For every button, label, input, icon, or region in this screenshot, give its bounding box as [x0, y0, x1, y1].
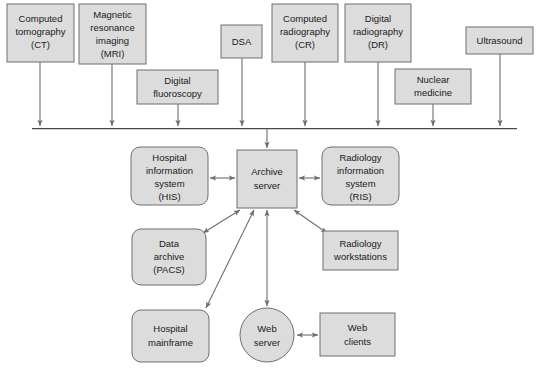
node-dsa-label-line-0: DSA	[232, 36, 252, 47]
node-archive-server-label-line-1: server	[254, 180, 280, 191]
node-ris-label-line-2: system	[345, 178, 375, 189]
node-web-server-label-line-0: Web	[257, 323, 276, 334]
node-nuclear-medicine-label-line-1: medicine	[414, 87, 452, 98]
pacs-architecture-diagram: Computed tomography (CT) Magnetic resona…	[0, 0, 540, 369]
node-mri[interactable]: Magnetic resonance imaging (MRI)	[79, 4, 146, 64]
diagram-canvas: Computed tomography (CT) Magnetic resona…	[0, 0, 540, 369]
node-ris-label-line-0: Radiology	[339, 152, 381, 163]
node-radiology-workstations-label-line-1: workstations	[333, 251, 387, 262]
edge-archive-server-radiology-workstations	[294, 210, 327, 233]
node-web-server-label-line-1: server	[254, 337, 280, 348]
node-data-archive-pacs-label-line-1: archive	[154, 251, 185, 262]
node-cr-label-line-1: radiography	[280, 26, 330, 37]
node-ct-label-line-1: tomography	[15, 26, 65, 37]
node-digital-fluoroscopy[interactable]: Digital fluoroscopy	[137, 70, 218, 104]
node-his[interactable]: Hospital information system (HIS)	[131, 147, 208, 205]
node-archive-server[interactable]: Archive server	[237, 150, 297, 208]
node-digital-fluoroscopy-label-line-0: Digital	[164, 75, 190, 86]
node-dr-label-line-2: (DR)	[368, 39, 388, 50]
node-data-archive-pacs[interactable]: Data archive (PACS)	[132, 229, 206, 285]
node-mri-label-line-2: imaging	[96, 35, 129, 46]
node-cr-label-line-2: (CR)	[295, 39, 315, 50]
node-archive-server-label-line-0: Archive	[251, 166, 283, 177]
node-his-label-line-1: information	[146, 165, 193, 176]
node-ct-label-line-0: Computed	[19, 13, 63, 24]
node-digital-fluoroscopy-label-line-1: fluoroscopy	[153, 88, 202, 99]
node-his-label-line-2: system	[154, 178, 184, 189]
node-mri-label-line-0: Magnetic	[93, 9, 132, 20]
node-web-server[interactable]: Web server	[240, 308, 294, 362]
node-web-clients[interactable]: Web clients	[320, 313, 395, 356]
node-nuclear-medicine[interactable]: Nuclear medicine	[395, 69, 471, 104]
node-dsa[interactable]: DSA	[221, 25, 262, 58]
node-his-label-line-0: Hospital	[152, 152, 186, 163]
node-ris-label-line-3: (RIS)	[349, 191, 371, 202]
node-radiology-workstations-label-line-0: Radiology	[339, 238, 381, 249]
node-mri-label-line-1: resonance	[90, 22, 134, 33]
node-ultrasound-label-line-0: Ultrasound	[477, 35, 523, 46]
node-cr[interactable]: Computed radiography (CR)	[272, 4, 338, 62]
node-web-clients-label-line-0: Web	[348, 322, 367, 333]
node-dr[interactable]: Digital radiography (DR)	[345, 4, 411, 62]
node-hospital-mainframe[interactable]: Hospital mainframe	[132, 310, 209, 362]
node-dr-label-line-0: Digital	[365, 13, 391, 24]
node-cr-label-line-0: Computed	[283, 13, 327, 24]
node-data-archive-pacs-label-line-2: (PACS)	[153, 264, 185, 275]
node-ct-label-line-2: (CT)	[31, 39, 50, 50]
node-radiology-workstations[interactable]: Radiology workstations	[323, 231, 398, 270]
edge-archive-server-data-archive	[203, 210, 240, 233]
node-web-clients-shape	[320, 313, 395, 356]
node-ct[interactable]: Computed tomography (CT)	[7, 4, 74, 62]
node-web-clients-label-line-1: clients	[344, 336, 371, 347]
node-web-server-shape	[240, 308, 294, 362]
node-ultrasound[interactable]: Ultrasound	[466, 27, 533, 54]
edge-archive-server-hospital-mainframe	[206, 210, 254, 308]
node-his-label-line-3: (HIS)	[158, 191, 180, 202]
modality-bus-line	[32, 128, 517, 129]
node-hospital-mainframe-label-line-0: Hospital	[153, 323, 187, 334]
node-data-archive-pacs-label-line-0: Data	[159, 238, 180, 249]
node-ris[interactable]: Radiology information system (RIS)	[322, 147, 399, 205]
node-hospital-mainframe-label-line-1: mainframe	[148, 337, 193, 348]
node-dr-label-line-1: radiography	[353, 26, 403, 37]
node-ris-label-line-1: information	[337, 165, 384, 176]
node-nuclear-medicine-label-line-0: Nuclear	[417, 74, 450, 85]
node-mri-label-line-3: (MRI)	[101, 48, 125, 59]
